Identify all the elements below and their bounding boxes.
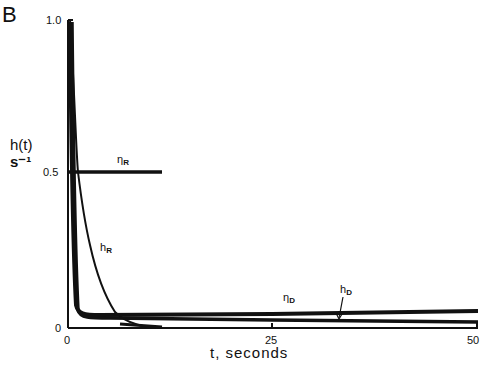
y-tick-0: 0 bbox=[55, 322, 61, 334]
arrow-h-D bbox=[336, 297, 343, 319]
x-tick-50: 50 bbox=[467, 334, 479, 346]
label-h-D-sub: D bbox=[346, 288, 352, 297]
label-eta-D-sub: D bbox=[289, 296, 295, 305]
label-h-R-sub: R bbox=[106, 246, 112, 255]
label-eta-R-sub: R bbox=[123, 158, 129, 167]
y-tick-1-0: 1.0 bbox=[46, 14, 61, 26]
axes bbox=[68, 20, 478, 328]
label-eta-R: ηR bbox=[117, 153, 129, 167]
label-h-D: hD bbox=[340, 283, 352, 297]
y-tick-0-5: 0.5 bbox=[43, 166, 58, 178]
x-tick-0: 0 bbox=[64, 334, 70, 346]
label-eta-D: ηD bbox=[283, 291, 295, 305]
label-h-R: hR bbox=[100, 241, 112, 255]
y-axis-label-line1: h(t) bbox=[10, 136, 33, 153]
y-axis-label: h(t) s⁻¹ bbox=[10, 136, 33, 170]
panel-label: B bbox=[2, 2, 17, 28]
series-h-R-tail bbox=[120, 324, 162, 327]
series-h-R bbox=[70, 20, 162, 328]
series-eta-D bbox=[70, 22, 478, 315]
y-axis-label-units: s⁻¹ bbox=[10, 153, 31, 170]
x-axis-label: t, seconds bbox=[210, 344, 288, 361]
chart-plot-area bbox=[0, 0, 480, 367]
